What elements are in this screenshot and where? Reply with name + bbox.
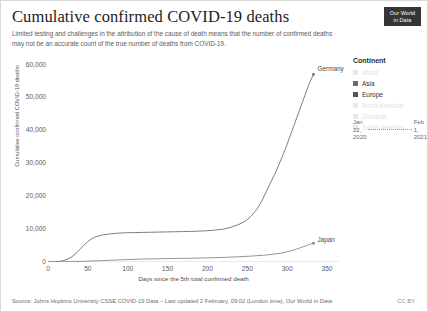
series-label-japan: Japan bbox=[317, 236, 334, 243]
x-tick-label: 150 bbox=[162, 265, 173, 272]
slider-end-line-1: Feb bbox=[414, 119, 427, 127]
slider-start-line-3: 2020 bbox=[353, 134, 366, 142]
x-axis-title: Days since the 5th total confirmed death bbox=[48, 275, 339, 282]
series-line-germany bbox=[48, 74, 313, 262]
y-tick-label: 50,000 bbox=[26, 93, 46, 100]
legend-item-africa[interactable]: Africa bbox=[353, 68, 425, 78]
x-tick-label: 350 bbox=[322, 265, 333, 272]
x-tick-label: 0 bbox=[46, 265, 50, 272]
chart-footer: Source: Johns Hopkins University CSSE CO… bbox=[12, 298, 419, 304]
plot-area: Germany Japan bbox=[48, 58, 339, 262]
slider-end-date: Feb 1, 2021 bbox=[414, 119, 427, 142]
y-tick-label: 20,000 bbox=[26, 192, 46, 199]
series-label-germany: Germany bbox=[317, 65, 343, 72]
legend-swatch-icon bbox=[353, 92, 358, 97]
logo-line-2: in Data bbox=[384, 17, 421, 24]
y-tick-label: 30,000 bbox=[26, 159, 46, 166]
slider-end-line-3: 2021 bbox=[414, 134, 427, 142]
legend-item-label: Africa bbox=[362, 69, 379, 77]
slider-start-line-2: 22, bbox=[353, 127, 366, 135]
y-tick-label: 0 bbox=[42, 258, 46, 265]
series-line-japan bbox=[48, 243, 313, 262]
x-tick-label: 50 bbox=[84, 265, 91, 272]
legend-swatch-icon bbox=[353, 103, 358, 108]
time-slider[interactable]: Jan 22, 2020 Feb 1, 2021 bbox=[353, 119, 427, 142]
source-note: Source: Johns Hopkins University CSSE CO… bbox=[12, 298, 332, 304]
legend-item-label: North America bbox=[362, 102, 403, 110]
legend-title: Continent bbox=[353, 57, 425, 64]
legend-item-label: Europe bbox=[362, 91, 383, 99]
license-note: CC BY bbox=[397, 298, 419, 304]
x-tick-label: 250 bbox=[242, 265, 253, 272]
legend-item-label: Asia bbox=[362, 80, 375, 88]
slider-rail bbox=[368, 129, 411, 130]
our-world-in-data-logo[interactable]: Our World in Data bbox=[384, 7, 421, 26]
series-endpoint-germany bbox=[312, 73, 315, 76]
y-tick-label: 40,000 bbox=[26, 126, 46, 133]
chart-plot-svg bbox=[48, 58, 339, 262]
x-tick-label: 300 bbox=[282, 265, 293, 272]
legend-item-asia[interactable]: Asia bbox=[353, 79, 425, 89]
legend-swatch-icon bbox=[353, 81, 358, 86]
y-axis-title: Cumulative confirmed COVID-19 deaths bbox=[14, 56, 20, 176]
y-tick-label: 60,000 bbox=[26, 61, 46, 68]
slider-start-date: Jan 22, 2020 bbox=[353, 119, 366, 142]
y-tick-label: 10,000 bbox=[26, 225, 46, 232]
slider-start-line-1: Jan bbox=[353, 119, 366, 127]
legend-item-north-america[interactable]: North America bbox=[353, 101, 425, 111]
slider-end-line-2: 1, bbox=[414, 127, 427, 135]
slider-track[interactable] bbox=[368, 126, 411, 133]
x-tick-label: 200 bbox=[202, 265, 213, 272]
chart-header: Cumulative confirmed COVID-19 deaths Lim… bbox=[12, 7, 352, 48]
x-tick-label: 100 bbox=[122, 265, 133, 272]
chart-subtitle: Limited testing and challenges in the at… bbox=[12, 29, 342, 48]
series-lines bbox=[48, 73, 315, 262]
series-endpoint-japan bbox=[312, 242, 315, 245]
legend-swatch-icon bbox=[353, 70, 358, 75]
logo-line-1: Our World bbox=[384, 10, 421, 17]
chart-container: Cumulative confirmed COVID-19 deaths Lim… bbox=[0, 0, 428, 312]
legend-item-europe[interactable]: Europe bbox=[353, 90, 425, 100]
page-title: Cumulative confirmed COVID-19 deaths bbox=[12, 7, 352, 26]
